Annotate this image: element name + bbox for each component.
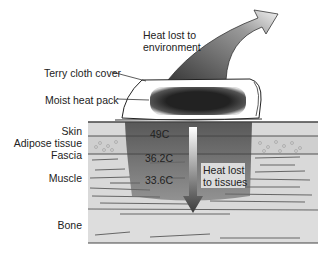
label-fascia: Fascia bbox=[51, 149, 82, 161]
env-arrow-label: Heat lost to environment bbox=[143, 29, 201, 53]
label-muscle: Muscle bbox=[49, 172, 82, 184]
tissue-arrow-label: Heat lost to tissues bbox=[203, 164, 247, 188]
temp-skin: 49C bbox=[150, 128, 169, 140]
cover-label: Terry cloth cover bbox=[44, 67, 121, 79]
env-label-line2: environment bbox=[143, 41, 201, 53]
tissue-label-line2: to tissues bbox=[203, 176, 247, 188]
temp-fascia: 36.2C bbox=[145, 152, 173, 164]
env-label-line1: Heat lost to bbox=[143, 29, 201, 41]
label-adipose: Adipose tissue bbox=[14, 137, 82, 149]
moist-heat-pack bbox=[150, 87, 246, 115]
temp-muscle: 33.6C bbox=[145, 174, 173, 186]
label-skin: Skin bbox=[62, 125, 82, 137]
tissue-label-line1: Heat lost bbox=[203, 164, 247, 176]
pack-label: Moist heat pack bbox=[45, 94, 119, 106]
label-bone: Bone bbox=[57, 219, 82, 231]
